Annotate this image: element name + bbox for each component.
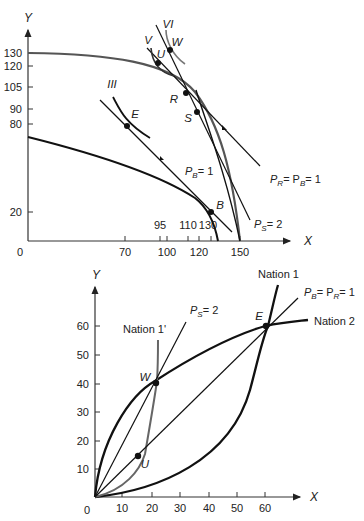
x-tick-70: 70 <box>119 246 131 258</box>
top-origin-label: 0 <box>17 246 23 258</box>
top-x-ticks: 70 100 120 150 95 110 130 <box>119 219 249 258</box>
x-tick-30: 30 <box>174 502 186 514</box>
x-tick-10: 10 <box>116 502 128 514</box>
point-S <box>194 109 200 115</box>
x-tick-50: 50 <box>231 502 243 514</box>
label-nation1: Nation 1 <box>258 268 299 280</box>
bottom-panel: Y X 0 60 50 40 30 20 10 10 20 30 <box>77 268 355 516</box>
top-panel: Y X 0 130 120 105 90 80 20 70 <box>4 11 321 258</box>
label-E: E <box>131 108 139 120</box>
label-V: V <box>144 34 153 46</box>
point-B <box>208 209 214 215</box>
x-tick-150: 150 <box>231 246 249 258</box>
bottom-y-ticks: 60 50 40 30 20 10 <box>77 320 100 475</box>
y-tick-30: 30 <box>77 406 89 418</box>
y-tick-10: 10 <box>77 463 89 475</box>
label-nation1prime: Nation 1' <box>123 323 166 335</box>
label-pb-1: PB= 1 <box>185 165 213 180</box>
y-tick-80: 80 <box>10 118 22 130</box>
label-B: B <box>216 199 224 211</box>
label-ps-2-bottom: PS= 2 <box>190 304 218 319</box>
x-tick-60: 60 <box>259 502 271 514</box>
label-U-bottom: U <box>141 458 150 470</box>
y-tick-60: 60 <box>77 320 89 332</box>
y-tick-20: 20 <box>77 435 89 447</box>
bottom-x-ticks: 10 20 30 40 50 60 <box>116 492 271 514</box>
x-tick-20: 20 <box>146 502 158 514</box>
point-R <box>183 90 189 96</box>
label-ps-2: PS= 2 <box>254 218 282 233</box>
diagram-canvas: Y X 0 130 120 105 90 80 20 70 <box>0 0 364 521</box>
y-tick-50: 50 <box>77 349 89 361</box>
x-tick-110: 110 <box>179 219 197 231</box>
pb-arrow-icon <box>160 156 164 160</box>
label-nation2: Nation 2 <box>314 315 355 327</box>
top-x-axis-label: X <box>303 234 313 248</box>
x-tick-100: 100 <box>158 246 176 258</box>
y-tick-90: 90 <box>10 103 22 115</box>
label-VI: VI <box>163 18 175 30</box>
label-pr-pb-1: PR= PB= 1 <box>270 173 321 188</box>
x-tick-40: 40 <box>203 502 215 514</box>
label-pb-pr-1-bottom: PB= PR= 1 <box>304 286 355 301</box>
bottom-origin-label: 0 <box>84 504 90 516</box>
pr-pb-price-line <box>147 48 260 166</box>
label-III: III <box>107 78 117 90</box>
label-W: W <box>172 36 184 48</box>
label-R: R <box>170 93 178 105</box>
ps-price-line-bottom <box>95 322 186 497</box>
label-U: U <box>157 48 166 60</box>
top-y-axis-label: Y <box>24 11 33 25</box>
point-E-bottom <box>263 323 269 329</box>
ps-price-line <box>156 25 250 220</box>
point-U <box>155 60 161 66</box>
x-tick-95: 95 <box>154 219 166 231</box>
point-W-bottom <box>153 380 159 386</box>
y-tick-130: 130 <box>4 47 22 59</box>
label-W-bottom: W <box>140 371 152 383</box>
y-tick-40: 40 <box>77 378 89 390</box>
nation2-offer-curve <box>95 320 308 497</box>
label-S: S <box>184 112 192 124</box>
y-tick-105: 105 <box>4 81 22 93</box>
label-E-bottom: E <box>255 310 263 322</box>
x-tick-120: 120 <box>190 246 208 258</box>
bottom-y-axis-label: Y <box>92 268 101 282</box>
point-E <box>124 123 130 129</box>
pr-pb-arrow-icon <box>222 125 227 130</box>
bottom-x-axis-label: X <box>309 490 319 504</box>
y-tick-120: 120 <box>4 60 22 72</box>
nation1-offer-curve <box>95 285 278 497</box>
y-tick-20: 20 <box>10 206 22 218</box>
nation1prime-offer-curve <box>95 340 158 497</box>
